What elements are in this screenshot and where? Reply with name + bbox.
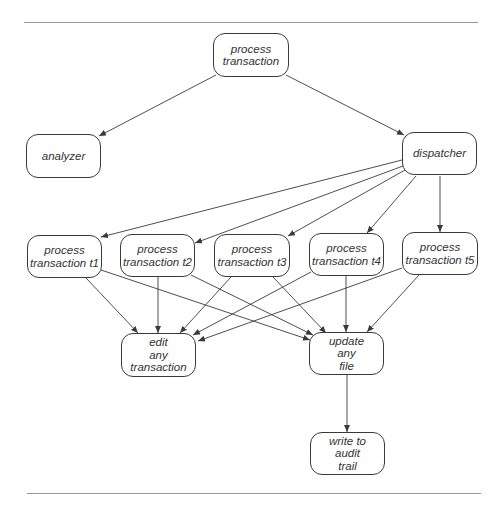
node-label-line: audit <box>335 447 360 460</box>
node-write-audit-trail: write toaudittrail <box>310 432 385 475</box>
node-label-line: process <box>420 241 460 254</box>
top-rule <box>24 22 478 23</box>
node-label-line: file <box>339 360 354 373</box>
node-label-line: any <box>337 347 356 360</box>
node-edit-any-transaction: editanytransaction <box>121 333 196 377</box>
edge-dispatcher-to-process_t2 <box>195 166 403 243</box>
node-label-line: dispatcher <box>413 147 466 160</box>
edge-dispatcher-to-process_t4 <box>367 176 416 233</box>
node-label-line: write to <box>329 435 366 448</box>
edge-dispatcher-to-process_t1 <box>101 160 402 237</box>
node-dispatcher: dispatcher <box>402 132 477 175</box>
node-label-line: any <box>149 349 168 362</box>
node-label-line: process <box>137 243 177 256</box>
node-label-line: process <box>326 242 366 255</box>
node-label-line: transaction <box>130 361 186 374</box>
edge-process_t5-to-update_any_file <box>367 275 419 332</box>
node-label-line: process <box>232 243 272 256</box>
node-update-any-file: updateanyfile <box>309 332 384 375</box>
node-process-t2: processtransaction t2 <box>120 234 195 277</box>
node-process-t1: processtransaction t1 <box>27 235 102 278</box>
edge-process_t3-to-edit_any_transaction <box>180 277 231 333</box>
node-label-line: update <box>329 335 364 348</box>
node-process-t5: processtransaction t5 <box>402 232 478 275</box>
node-process-t4: processtransaction t4 <box>309 233 384 276</box>
node-process-transaction: processtransaction <box>213 33 289 77</box>
edge-process_t5-to-edit_any_transaction <box>198 268 402 341</box>
node-label-line: transaction t5 <box>405 254 474 267</box>
node-label-line: transaction t4 <box>312 255 381 268</box>
edge-process_t1-to-edit_any_transaction <box>86 278 138 333</box>
node-label-line: transaction t3 <box>217 256 286 269</box>
node-label-line: transaction <box>223 55 279 68</box>
node-label-line: process <box>44 244 84 257</box>
edge-process_transaction-to-dispatcher <box>286 75 404 135</box>
node-label-line: transaction t2 <box>123 256 192 269</box>
node-analyzer: analyzer <box>26 134 101 178</box>
node-label-line: transaction t1 <box>30 257 99 270</box>
node-process-t3: processtransaction t3 <box>214 234 290 277</box>
node-label-line: process <box>231 43 271 56</box>
bottom-rule <box>27 493 481 494</box>
edge-dispatcher-to-process_t3 <box>288 170 405 236</box>
node-label-line: analyzer <box>42 150 85 163</box>
node-label-line: trail <box>338 460 357 473</box>
edge-process_transaction-to-analyzer <box>99 75 216 136</box>
node-label-line: edit <box>149 336 168 349</box>
